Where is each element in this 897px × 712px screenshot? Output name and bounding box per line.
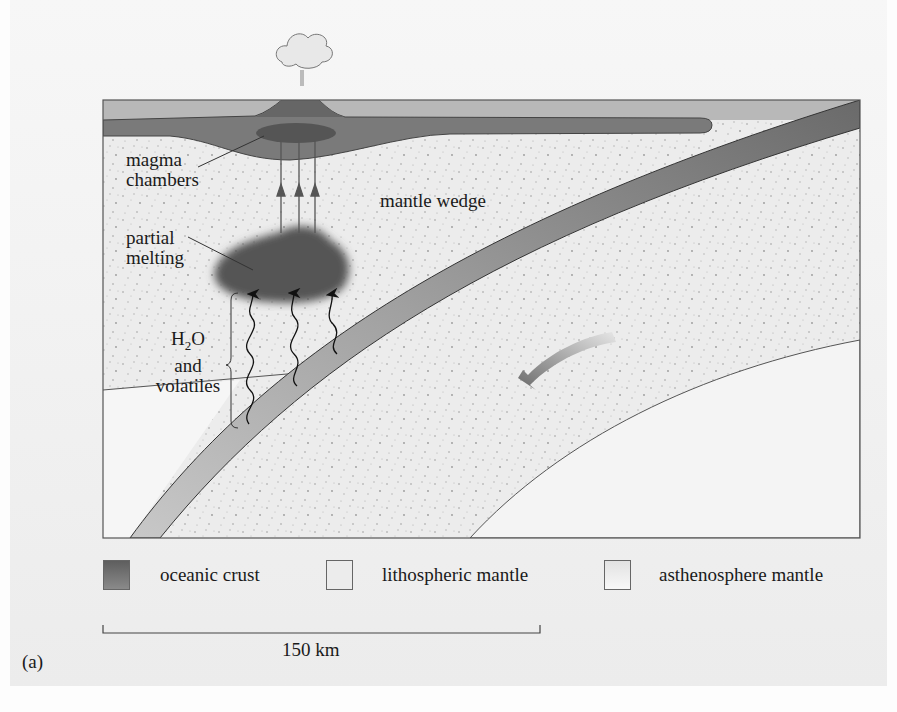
- legend-swatch-asthenosphere-mantle: [604, 560, 631, 590]
- scale-bar: [103, 625, 540, 633]
- legend-label-oceanic-crust: oceanic crust: [160, 564, 260, 586]
- magma-chamber: [256, 123, 336, 143]
- legend-label-asthenosphere-mantle: asthenosphere mantle: [659, 564, 823, 586]
- panel-label: (a): [22, 651, 43, 673]
- label-partial-melting: partial melting: [126, 228, 184, 268]
- label-h2o-volatiles: H2O and volatiles: [148, 329, 228, 396]
- eruption-cloud-icon: [276, 34, 332, 86]
- subduction-zone-diagram: [0, 0, 897, 712]
- legend-swatch-oceanic-crust: [103, 560, 130, 590]
- legend-label-lithospheric-mantle: lithospheric mantle: [382, 564, 528, 586]
- legend-swatch-lithospheric-mantle: [326, 560, 353, 590]
- label-mantle-wedge: mantle wedge: [380, 191, 486, 211]
- label-magma-chambers: magma chambers: [126, 150, 199, 190]
- scale-bar-label: 150 km: [282, 639, 340, 661]
